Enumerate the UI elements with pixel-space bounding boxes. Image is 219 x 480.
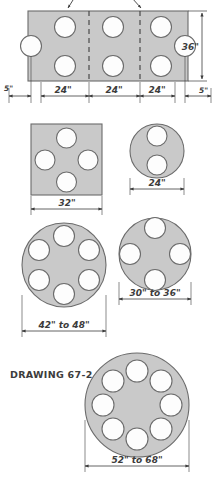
seat-position bbox=[54, 284, 75, 305]
seat-position bbox=[126, 360, 148, 382]
seat-position bbox=[103, 17, 124, 38]
dimension-label-square-width: 32" bbox=[58, 198, 75, 208]
seat-position bbox=[29, 240, 50, 261]
dimension-label-small-round: 24" bbox=[148, 178, 165, 188]
seat-position bbox=[92, 394, 114, 416]
dimension-label-round-six: 42" to 48" bbox=[37, 320, 89, 330]
seat-position bbox=[151, 56, 172, 77]
seat-position bbox=[57, 128, 77, 148]
seat-position bbox=[160, 394, 182, 416]
dimension-label-segment-1: 24" bbox=[54, 85, 71, 95]
dimension-label-round-eight: 52" to 68" bbox=[111, 455, 162, 465]
dimension-label-segment-3: 24" bbox=[148, 85, 165, 95]
seat-position-left-end bbox=[21, 36, 42, 57]
seat-position bbox=[147, 155, 167, 175]
dimension-label-segment-2: 24" bbox=[105, 85, 122, 95]
seat-position bbox=[170, 244, 191, 265]
seat-position bbox=[150, 370, 172, 392]
seat-position bbox=[55, 17, 76, 38]
seat-position bbox=[147, 126, 167, 146]
seat-position bbox=[151, 17, 172, 38]
seat-position bbox=[145, 218, 166, 239]
dimension-label-left-margin: 5" bbox=[4, 84, 13, 93]
seat-position bbox=[57, 172, 77, 192]
seat-position bbox=[102, 418, 124, 440]
dimension-label-right-margin: 5" bbox=[199, 86, 208, 95]
dimension-label-rect-height: 36" bbox=[182, 42, 199, 52]
seat-position bbox=[126, 428, 148, 450]
seat-position bbox=[79, 270, 100, 291]
furniture-layout-drawing: 36" 5" 24" 24" 24" 5" bbox=[0, 0, 219, 480]
seat-position bbox=[78, 150, 98, 170]
drawing-canvas: 36" 5" 24" 24" 24" 5" bbox=[0, 0, 219, 480]
seat-position bbox=[29, 270, 50, 291]
seat-position bbox=[35, 150, 55, 170]
drawing-caption: DRAWING 67-2 bbox=[10, 369, 93, 380]
seat-position bbox=[79, 240, 100, 261]
figure-round-table-four: 30" to 36" bbox=[119, 218, 191, 306]
seat-position bbox=[150, 418, 172, 440]
seat-position bbox=[102, 370, 124, 392]
seat-position bbox=[120, 244, 141, 265]
seat-position bbox=[103, 56, 124, 77]
dimension-label-round-four: 30" to 36" bbox=[129, 288, 180, 298]
seat-position bbox=[55, 56, 76, 77]
seat-position bbox=[54, 226, 75, 247]
